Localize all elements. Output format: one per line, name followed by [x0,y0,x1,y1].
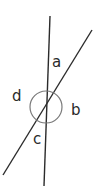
angle-label-b: b [71,101,81,119]
angle-label-d: d [12,87,22,105]
angle-label-c: c [33,130,41,148]
angle-label-a: a [52,53,61,71]
angle-diagram: a b c d [0,0,98,191]
